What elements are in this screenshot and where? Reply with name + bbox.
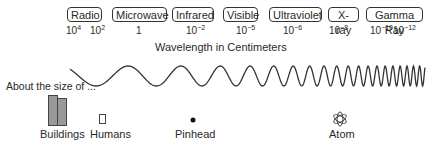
- size-label-pinhead: Pinhead: [175, 128, 215, 140]
- size-label-atom: Atom: [329, 128, 355, 140]
- human-icon: [100, 115, 106, 124]
- pinhead-icon: [191, 118, 196, 123]
- size-label-buildings: Buildings: [40, 128, 85, 140]
- size-icons: [0, 0, 433, 144]
- buildings-icon: [49, 96, 67, 126]
- atom-icon: [332, 112, 347, 126]
- size-label-humans: Humans: [90, 128, 131, 140]
